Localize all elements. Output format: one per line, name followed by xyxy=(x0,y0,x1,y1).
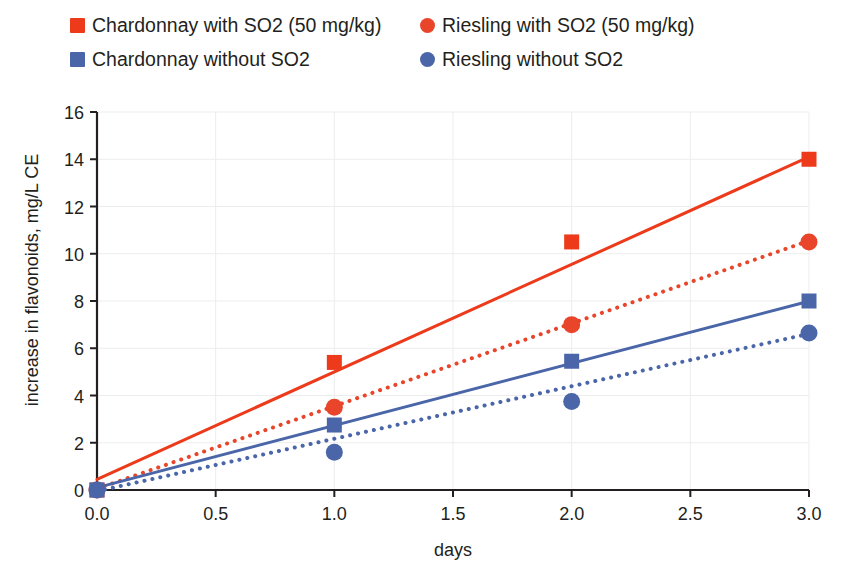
y-axis-tick-label: 12 xyxy=(64,198,84,218)
x-axis-tick-label: 3.0 xyxy=(796,504,821,524)
data-point-series-2-x-2 xyxy=(564,354,579,369)
x-axis-tick-label: 2.5 xyxy=(678,504,703,524)
x-axis-tick-label: 0.5 xyxy=(203,504,228,524)
data-point-series-2-x-1 xyxy=(327,418,342,433)
data-point-series-0-x-3 xyxy=(802,152,817,167)
x-axis-tick-label: 2.0 xyxy=(559,504,584,524)
data-point-series-1-x-2 xyxy=(563,316,580,333)
y-axis-tick-label: 6 xyxy=(74,339,84,359)
y-axis-title: increase in flavonoids, mg/L CE xyxy=(22,80,43,480)
data-point-series-2-x-3 xyxy=(802,294,817,309)
x-axis-tick-label: 0.0 xyxy=(84,504,109,524)
data-point-series-1-x-3 xyxy=(801,233,818,250)
data-point-series-3-x-0 xyxy=(89,482,106,499)
x-axis-title: days xyxy=(97,540,809,561)
y-axis-tick-label: 0 xyxy=(74,481,84,501)
y-axis-tick-label: 16 xyxy=(64,103,84,123)
plot-svg: 02468101214160.00.51.01.52.02.53.0 xyxy=(0,0,841,576)
y-axis-tick-label: 4 xyxy=(74,387,84,407)
y-axis-tick-label: 10 xyxy=(64,245,84,265)
y-axis-tick-label: 14 xyxy=(64,150,84,170)
data-point-series-0-x-2 xyxy=(564,234,579,249)
data-point-series-1-x-1 xyxy=(326,399,343,416)
x-axis-tick-label: 1.0 xyxy=(322,504,347,524)
data-point-series-3-x-1 xyxy=(326,444,343,461)
data-point-series-0-x-1 xyxy=(327,355,342,370)
chart-container: Chardonnay with SO2 (50 mg/kg) Riesling … xyxy=(0,0,841,576)
plot-area: 02468101214160.00.51.01.52.02.53.0 xyxy=(0,0,841,576)
x-axis-tick-label: 1.5 xyxy=(440,504,465,524)
data-point-series-3-x-2 xyxy=(563,393,580,410)
y-axis-tick-label: 2 xyxy=(74,434,84,454)
data-point-series-3-x-3 xyxy=(801,324,818,341)
y-axis-tick-label: 8 xyxy=(74,292,84,312)
